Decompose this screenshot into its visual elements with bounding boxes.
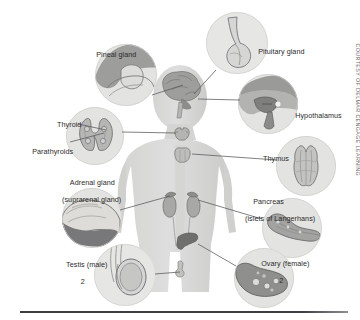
label-hypothalamus-text: Hypothalamus [295, 111, 342, 120]
label-thyroid: Thyroid [49, 112, 81, 138]
label-ovary-count: 2 [253, 277, 309, 286]
thymus-organ [175, 148, 190, 162]
label-pituitary-gland-text: Pituitary gland [258, 47, 304, 56]
label-testis: Testis (male) 2 [58, 252, 107, 304]
label-testis-count: 2 [58, 278, 107, 287]
label-pancreas: Pancreas (islets of Langerhans) [245, 189, 315, 241]
label-pineal-gland-text: Pineal gland [96, 50, 136, 59]
endocrine-system-figure: Pineal gland Pituitary gland Hypothalamu… [0, 0, 360, 320]
label-pineal-gland: Pineal gland [88, 42, 136, 68]
label-pituitary-gland: Pituitary gland [250, 39, 305, 65]
label-ovary-text: Ovary (female) [261, 259, 309, 268]
label-testis-text: Testis (male) [66, 260, 107, 269]
label-parathyroids: Parathyroids [24, 139, 73, 165]
label-hypothalamus: Hypothalamus [287, 103, 342, 129]
label-parathyroids-text: Parathyroids [32, 147, 73, 156]
label-adrenal-gland-text: Adrenal gland [70, 178, 115, 187]
label-adrenal-gland: Adrenal gland (suprarenal gland) [62, 170, 121, 222]
label-thymus-text: Thymus [263, 154, 289, 163]
label-thyroid-text: Thyroid [57, 120, 81, 129]
label-pancreas-text: Pancreas [253, 197, 284, 206]
label-ovary: Ovary (female) 2 [253, 251, 309, 303]
label-adrenal-gland-subtext: (suprarenal gland) [62, 196, 121, 205]
label-thymus: Thymus [255, 146, 289, 172]
bottom-rule [20, 311, 348, 313]
credit-line: COURTESY OF DELMAR CENGAGE LEARNING [355, 44, 360, 176]
label-pancreas-subtext: (islets of Langerhans) [245, 215, 315, 224]
